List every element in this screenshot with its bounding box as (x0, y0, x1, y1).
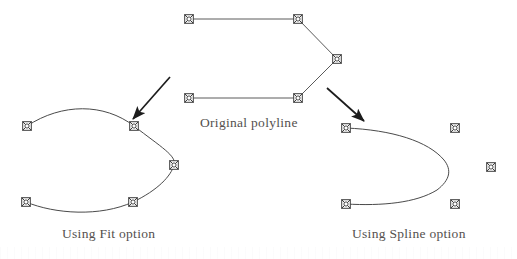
spline-curve-group (342, 124, 496, 209)
caption-spline-option: Using Spline option (352, 226, 466, 242)
arrow-to-fit (133, 77, 170, 119)
vertex-marker (333, 55, 342, 64)
spline-curve (346, 128, 449, 205)
vertex-marker (342, 124, 351, 133)
vertex-marker (129, 198, 138, 207)
vertex-marker (294, 94, 303, 103)
caption-original-polyline: Original polyline (200, 115, 298, 131)
fit-curve-group (22, 109, 179, 212)
vertex-marker (451, 124, 460, 133)
caption-fit-option: Using Fit option (62, 226, 155, 242)
diagram-canvas: Original polyline Using Fit option Using… (0, 0, 517, 259)
vertex-marker (22, 198, 31, 207)
fit-curve-vertices (22, 122, 179, 207)
fit-curve (26, 109, 174, 212)
vertex-marker (451, 200, 460, 209)
vertex-marker (487, 163, 496, 172)
spline-curve-vertices (342, 124, 496, 209)
original-polyline (189, 19, 337, 98)
vertex-marker (185, 15, 194, 24)
vertex-marker (130, 122, 139, 131)
vertex-marker (342, 200, 351, 209)
original-polyline-group (185, 15, 342, 103)
vertex-marker (185, 94, 194, 103)
original-polyline-vertices (185, 15, 342, 103)
arrow-to-spline (327, 88, 364, 121)
vertex-marker (294, 15, 303, 24)
vertex-marker (170, 161, 179, 170)
vertex-marker (23, 122, 32, 131)
